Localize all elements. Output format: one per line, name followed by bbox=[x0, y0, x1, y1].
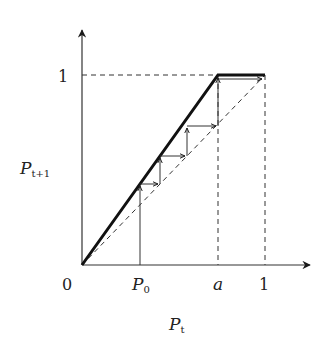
cobweb-diagram: 0 1 P0 a 1 Pt+1 Pt bbox=[0, 0, 331, 342]
y-axis-label: Pt+1 bbox=[19, 158, 50, 179]
cobweb-staircase bbox=[140, 78, 262, 265]
y-one-label: 1 bbox=[58, 67, 68, 86]
origin-label: 0 bbox=[62, 275, 72, 294]
x-axis-label: Pt bbox=[168, 314, 184, 335]
x-one-label: 1 bbox=[259, 275, 269, 294]
p0-label: P0 bbox=[131, 274, 150, 295]
diagonal-45 bbox=[82, 75, 265, 265]
a-label: a bbox=[213, 274, 223, 294]
